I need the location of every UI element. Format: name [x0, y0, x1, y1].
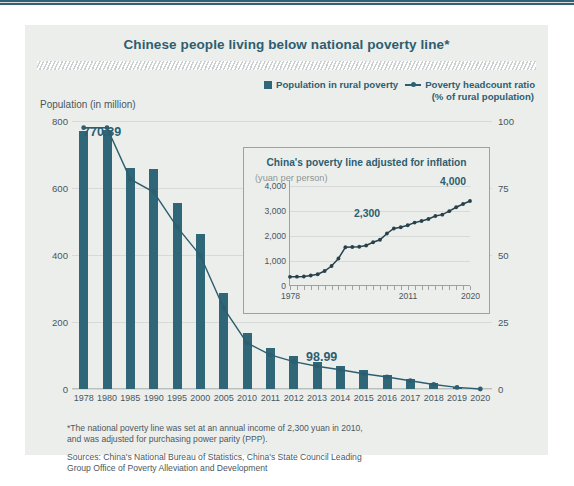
- legend-line-marker-icon: [405, 81, 421, 89]
- line-marker: [198, 253, 203, 258]
- inset-line-marker: [440, 213, 444, 217]
- inset-chart: China's poverty line adjusted for inflat…: [243, 147, 490, 314]
- inset-plot-area: 01,0002,0003,0004,000 197820112020: [290, 186, 470, 286]
- y2-axis-tick-label: 0: [498, 384, 503, 395]
- inset-line-marker: [309, 274, 313, 278]
- inset-y-tick-label: 4,000: [264, 181, 286, 191]
- inset-x-tick: [435, 286, 436, 290]
- inset-title: China's poverty line adjusted for inflat…: [244, 157, 489, 168]
- y-axis-tick-label: 600: [52, 183, 68, 194]
- inset-x-tick-label: 1978: [281, 291, 300, 301]
- legend-item-line: Poverty headcount ratio: [405, 79, 535, 90]
- inset-x-tick: [422, 286, 423, 290]
- inset-x-tick: [428, 286, 429, 290]
- line-marker: [478, 387, 483, 392]
- x-axis-tick-label: 2011: [261, 393, 280, 403]
- x-axis-tick-label: 1980: [97, 393, 117, 403]
- legend-bar-label: Population in rural poverty: [276, 79, 398, 90]
- inset-line-marker: [454, 205, 458, 209]
- line-marker: [128, 177, 133, 182]
- inset-x-tick: [318, 286, 319, 290]
- x-axis-tick-label: 2016: [377, 393, 397, 403]
- inset-x-tick: [442, 286, 443, 290]
- annotation-mid-value: 98.99: [306, 350, 337, 364]
- inset-x-tick-label: 2011: [399, 291, 417, 301]
- inset-line-marker: [392, 227, 396, 231]
- cropped-body-text: [30, 474, 550, 484]
- inset-x-tick: [297, 286, 298, 290]
- line-marker: [245, 341, 250, 346]
- x-axis-labels: 1978198019851990199520002005201020112012…: [72, 393, 492, 407]
- inset-x-tick: [352, 286, 353, 290]
- inset-x-tick: [463, 286, 464, 290]
- inset-line-marker: [447, 209, 451, 213]
- inset-line-marker: [364, 244, 368, 248]
- x-axis-tick-label: 1985: [120, 393, 140, 403]
- inset-annotation: 4,000: [440, 176, 466, 187]
- inset-x-tick: [449, 286, 450, 290]
- legend-square-icon: [264, 81, 272, 89]
- sources-line-1: Sources: China's National Bureau of Stat…: [67, 452, 497, 463]
- x-axis-tick-label: 2018: [424, 393, 444, 403]
- inset-line-marker: [316, 272, 320, 276]
- y-axis-tick-label: 0: [63, 384, 68, 395]
- inset-line-marker: [288, 275, 292, 279]
- inset-line-marker: [295, 275, 299, 279]
- inset-line-marker: [357, 245, 361, 249]
- screenshot-page: Chinese people living below national pov…: [0, 0, 574, 486]
- x-axis-tick-label: 2005: [214, 393, 234, 403]
- footnote-line-2: and was adjusted for purchasing power pa…: [67, 434, 497, 445]
- line-marker: [151, 190, 156, 195]
- x-axis-tick-label: 2014: [330, 393, 350, 403]
- inset-x-tick: [332, 286, 333, 290]
- inset-x-tick-label: 2020: [461, 291, 480, 301]
- x-axis-tick-label: 2010: [237, 393, 257, 403]
- inset-line-marker: [461, 202, 465, 206]
- inset-line-marker: [399, 225, 403, 229]
- chart-title: Chinese people living below national pov…: [25, 37, 548, 52]
- y-axis-tick-label: 800: [52, 116, 68, 127]
- inset-line-marker: [433, 214, 437, 218]
- inset-y-tick-label: 2,000: [264, 231, 286, 241]
- x-axis-tick-label: 2020: [470, 393, 490, 403]
- legend-item-bar: Population in rural poverty: [264, 79, 398, 90]
- y2-axis-tick-label: 100: [498, 116, 514, 127]
- inset-line-marker: [350, 245, 354, 249]
- inset-line-marker: [420, 219, 424, 223]
- top-accent-rule: [0, 0, 574, 5]
- chart-legend: Population in rural poverty Poverty head…: [185, 79, 535, 102]
- line-marker: [431, 382, 436, 387]
- left-axis-caption: Population (in million): [40, 99, 136, 110]
- inset-x-tick: [408, 286, 409, 290]
- inset-line-marker: [406, 223, 410, 227]
- x-axis-tick-label: 2012: [284, 393, 304, 403]
- x-axis-tick-label: 2013: [307, 393, 327, 403]
- inset-line-marker: [371, 240, 375, 244]
- line-marker: [315, 364, 320, 369]
- x-axis-tick-label: 1978: [74, 393, 94, 403]
- chart-notes: *The national poverty line was set at an…: [67, 423, 497, 475]
- line-marker: [455, 385, 460, 390]
- footnote-line-1: *The national poverty line was set at an…: [67, 423, 497, 434]
- y2-axis-tick-label: 25: [498, 317, 509, 328]
- inset-x-tick: [290, 286, 291, 290]
- line-marker: [338, 367, 343, 372]
- y-axis-tick-label: 200: [52, 317, 68, 328]
- legend-line-label: Poverty headcount ratio: [425, 79, 535, 90]
- inset-y-tick-label: 1,000: [264, 256, 286, 266]
- inset-line-series: [290, 186, 470, 286]
- inset-x-tick: [359, 286, 360, 290]
- annotation-first-value: 770.39: [83, 125, 121, 139]
- inset-annotation: 2,300: [354, 208, 380, 219]
- inset-x-tick: [470, 286, 471, 290]
- inset-x-tick: [304, 286, 305, 290]
- inset-x-tick: [338, 286, 339, 290]
- inset-line-marker: [330, 264, 334, 268]
- inset-line-marker: [413, 221, 417, 225]
- line-marker: [268, 353, 273, 358]
- y2-axis-tick-label: 75: [498, 183, 509, 194]
- inset-x-tick: [311, 286, 312, 290]
- x-axis-tick-label: 2017: [400, 393, 420, 403]
- inset-line-marker: [385, 232, 389, 236]
- x-axis-tick-label: 1990: [144, 393, 164, 403]
